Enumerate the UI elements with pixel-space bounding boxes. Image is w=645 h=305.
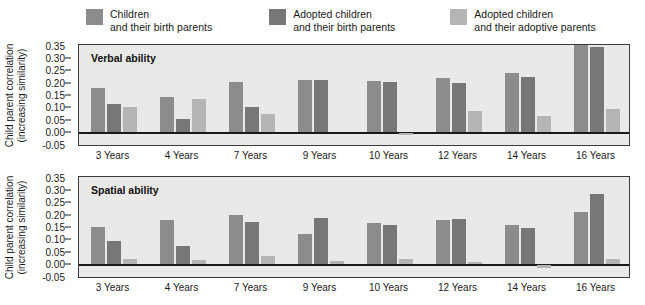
x-tick-label: 14 Years: [507, 282, 546, 293]
bar: [107, 241, 121, 263]
y-tick-label: 0.30: [46, 52, 65, 63]
bar: [314, 218, 328, 264]
legend-item-children-birth: Children and their birth parents: [86, 8, 212, 33]
x-tick-label: 4 Years: [165, 150, 198, 161]
y-tick-mark: [65, 119, 71, 120]
bar: [606, 109, 620, 131]
bar: [176, 119, 190, 131]
bar: [452, 83, 466, 131]
y-tick-mark: [65, 189, 71, 190]
y-tick-label: 0.20: [46, 209, 65, 220]
x-tick-label: 10 Years: [369, 282, 408, 293]
y-tick-label: 0.30: [46, 184, 65, 195]
bar: [192, 99, 206, 131]
bar: [367, 81, 381, 132]
y-axis-ticks-verbal: 0.350.300.250.200.150.100.050.00-0.05: [30, 44, 74, 146]
y-axis-label-line2: (increasing similarity): [16, 175, 28, 278]
bar: [452, 219, 466, 264]
y-axis-label-spatial: Child parent correlation (increasing sim…: [2, 176, 30, 278]
legend-item-adopted-birth: Adopted children and their birth parents: [269, 8, 395, 33]
legend-label-children-birth: Children and their birth parents: [110, 8, 212, 33]
y-tick-mark: [65, 57, 71, 58]
x-axis-labels-verbal: 3 Years4 Years7 Years9 Years10 Years12 Y…: [78, 150, 630, 166]
x-tick-label: 3 Years: [96, 282, 129, 293]
x-tick-label: 9 Years: [303, 282, 336, 293]
chart-panel-spatial: Child parent correlation (increasing sim…: [0, 172, 645, 305]
bar: [261, 256, 275, 263]
legend-item-adopted-adoptive: Adopted children and their adoptive pare…: [450, 8, 595, 33]
plot-area-spatial: Spatial ability: [78, 176, 630, 278]
y-tick-label: 0.20: [46, 77, 65, 88]
y-tick-label: 0.35: [46, 40, 65, 51]
chart-panel-verbal: Child parent correlation (increasing sim…: [0, 40, 645, 168]
x-tick-label: 14 Years: [507, 150, 546, 161]
x-tick-label: 16 Years: [576, 282, 615, 293]
bar: [436, 78, 450, 131]
x-tick-label: 9 Years: [303, 150, 336, 161]
y-tick-mark: [65, 202, 71, 203]
bar: [91, 227, 105, 264]
y-tick-label: 0.25: [46, 197, 65, 208]
chart-legend: Children and their birth parents Adopted…: [0, 8, 645, 40]
bar: [123, 259, 137, 264]
plot-area-verbal: Verbal ability: [78, 44, 630, 146]
y-tick-label: 0.35: [46, 172, 65, 183]
y-axis-label-line1: Child parent correlation: [5, 175, 16, 278]
bar: [123, 107, 137, 132]
bar: [537, 116, 551, 132]
bar: [590, 47, 604, 131]
bar: [229, 215, 243, 263]
bar: [399, 259, 413, 264]
y-tick-mark: [65, 132, 71, 133]
bar: [521, 228, 535, 264]
bar: [160, 220, 174, 263]
x-tick-label: 16 Years: [576, 150, 615, 161]
bar: [383, 225, 397, 263]
y-tick-label: 0.25: [46, 65, 65, 76]
bar: [468, 111, 482, 132]
y-axis-ticks-spatial: 0.350.300.250.200.150.100.050.00-0.05: [30, 176, 74, 278]
bar: [399, 133, 413, 135]
y-tick-mark: [65, 264, 71, 265]
y-axis-label-verbal: Child parent correlation (increasing sim…: [2, 44, 30, 146]
bar: [537, 265, 551, 268]
bar: [160, 97, 174, 132]
bar: [91, 88, 105, 131]
bar: [606, 259, 620, 264]
y-tick-mark: [65, 107, 71, 108]
x-tick-label: 12 Years: [438, 282, 477, 293]
x-tick-label: 3 Years: [96, 150, 129, 161]
bar: [590, 194, 604, 263]
y-tick-mark: [65, 70, 71, 71]
y-tick-label: 0.10: [46, 234, 65, 245]
y-axis-label-line1: Child parent correlation: [5, 43, 16, 146]
bar: [314, 80, 328, 132]
bar: [298, 80, 312, 132]
y-tick-mark: [65, 214, 71, 215]
y-tick-label: 0.00: [46, 259, 65, 270]
y-tick-mark: [65, 82, 71, 83]
x-tick-label: 12 Years: [438, 150, 477, 161]
bar: [245, 222, 259, 264]
x-tick-label: 4 Years: [165, 282, 198, 293]
bar: [298, 234, 312, 264]
bar: [330, 261, 344, 263]
y-axis-label-line2: (increasing similarity): [16, 43, 28, 146]
bar: [367, 223, 381, 264]
bars-layer-verbal: [79, 45, 629, 145]
bar: [192, 260, 206, 264]
bar: [261, 114, 275, 131]
y-tick-mark: [65, 95, 71, 96]
x-tick-label: 7 Years: [234, 150, 267, 161]
legend-label-adopted-birth: Adopted children and their birth parents: [293, 8, 395, 33]
y-tick-label: 0.15: [46, 222, 65, 233]
y-tick-label: 0.05: [46, 114, 65, 125]
bar: [245, 107, 259, 132]
legend-swatch-children-birth: [86, 9, 103, 25]
y-tick-label: 0.10: [46, 102, 65, 113]
x-tick-label: 10 Years: [369, 150, 408, 161]
y-tick-label: 0.15: [46, 90, 65, 101]
y-tick-label: -0.05: [42, 271, 65, 282]
y-tick-label: -0.05: [42, 139, 65, 150]
bar: [107, 104, 121, 131]
